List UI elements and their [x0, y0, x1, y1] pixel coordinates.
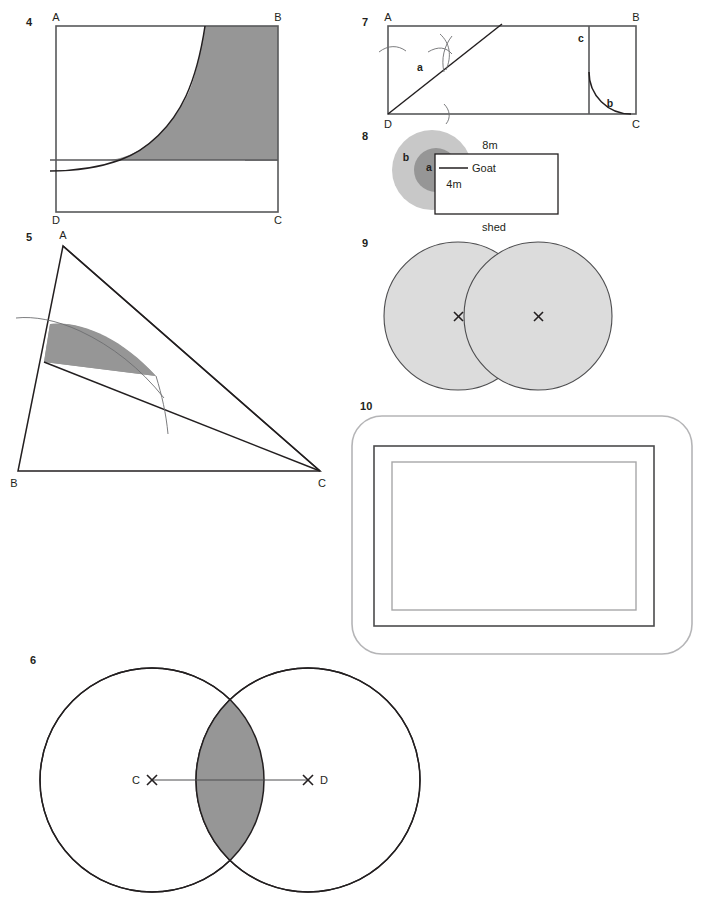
figure-4-label-B: B — [274, 11, 281, 23]
figure-8-dimension-top: 8m — [482, 139, 497, 151]
figure-7-region-b: b — [607, 97, 613, 109]
figure-7-region-c: c — [578, 32, 584, 44]
figure-8-region-a: a — [426, 161, 432, 173]
figure-7-label-B: B — [632, 11, 639, 23]
figure-4-label-D: D — [52, 214, 60, 226]
figure-5-label-B: B — [10, 477, 17, 489]
figure-7-region-a: a — [417, 61, 423, 73]
figure-8-goat-label: Goat — [472, 162, 496, 174]
figure-7-label-C: C — [632, 118, 640, 130]
figure-10 — [350, 414, 698, 662]
figure-10-middle-frame — [374, 446, 654, 626]
figure-8-dimension-left: 4m — [446, 178, 461, 190]
figure-9 — [380, 238, 635, 398]
figure-6: C D — [18, 658, 448, 908]
figure-10-inner-frame — [392, 462, 636, 610]
figure-6-label-C: C — [132, 774, 140, 786]
figure-8-shed-label: shed — [482, 221, 506, 233]
worksheet-page: 4 A — [0, 0, 705, 908]
figure-8: b a 8m 4m Goat shed — [382, 128, 582, 238]
figure-6-label-D: D — [320, 774, 328, 786]
figure-number-7: 7 — [362, 17, 368, 28]
figure-5-label-A: A — [59, 229, 67, 241]
figure-4-label-A: A — [52, 11, 60, 23]
figure-10-outer-frame — [352, 416, 692, 654]
figure-8-region-b: b — [403, 151, 409, 163]
figure-5: A B C — [8, 228, 338, 493]
figure-number-4: 4 — [26, 17, 32, 28]
figure-4-label-C: C — [274, 214, 282, 226]
figure-5-label-C: C — [318, 477, 326, 489]
figure-number-10: 10 — [360, 401, 373, 412]
figure-number-9: 9 — [362, 238, 368, 249]
figure-4: A B C D — [40, 14, 310, 226]
figure-7: a b c A B C D — [382, 14, 647, 132]
figure-7-label-A: A — [384, 11, 392, 23]
figure-number-8: 8 — [362, 131, 368, 142]
